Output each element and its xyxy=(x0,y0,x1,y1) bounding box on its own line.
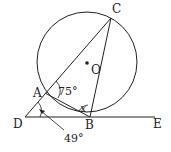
label-point-o: O xyxy=(91,63,101,77)
pointer-line-49 xyxy=(41,111,64,130)
label-angle-75: 75° xyxy=(58,85,78,98)
label-angle-49: 49° xyxy=(64,132,84,145)
label-point-d: D xyxy=(13,117,23,131)
label-point-c: C xyxy=(112,2,121,16)
label-point-e: E xyxy=(153,117,162,131)
center-point-o xyxy=(85,61,89,65)
label-point-a: A xyxy=(32,86,42,100)
label-angle-x: x xyxy=(80,102,87,115)
label-point-b: B xyxy=(85,118,94,132)
geometry-diagram: C O A D B E 75° x 49° xyxy=(0,0,171,152)
